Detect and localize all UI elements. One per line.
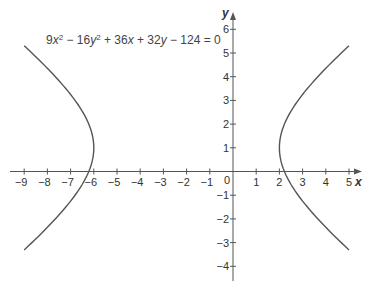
- x-tick-label: −3: [154, 176, 167, 188]
- y-tick-label: 5: [223, 47, 229, 59]
- y-axis: −4−3−2−1123456: [216, 12, 236, 281]
- y-tick-label: 3: [223, 94, 229, 106]
- x-axis-arrow-icon: [354, 169, 362, 175]
- y-tick-label: −3: [216, 237, 229, 249]
- x-axis: −9−8−7−6−5−4−3−2−112345: [10, 169, 362, 188]
- origin-label: 0: [224, 174, 230, 186]
- x-tick-label: 5: [346, 176, 352, 188]
- y-tick-label: 1: [223, 142, 229, 154]
- x-tick-label: −7: [61, 176, 74, 188]
- x-tick-label: −2: [177, 176, 190, 188]
- x-tick-label: 1: [253, 176, 259, 188]
- y-tick-label: 2: [223, 118, 229, 130]
- y-tick-label: −2: [216, 213, 229, 225]
- x-tick-label: 2: [276, 176, 282, 188]
- hyperbola-chart: −9−8−7−6−5−4−3−2−112345 −4−3−2−1123456 9…: [0, 0, 371, 287]
- y-tick-label: 6: [223, 23, 229, 35]
- equation-annotation: 9x2 − 16y2 + 36x + 32y − 124 = 0: [46, 33, 221, 48]
- x-tick-label: 3: [300, 176, 306, 188]
- x-tick-label: −5: [108, 176, 121, 188]
- right-branch: [279, 46, 349, 250]
- x-tick-label: −9: [15, 176, 28, 188]
- y-axis-label: y: [221, 6, 230, 20]
- x-tick-label: −8: [38, 176, 51, 188]
- y-axis-arrow-icon: [230, 12, 236, 20]
- x-tick-label: −4: [131, 176, 144, 188]
- x-axis-label: x: [354, 175, 363, 189]
- hyperbola-curves: [24, 46, 349, 250]
- left-branch: [24, 46, 94, 250]
- y-tick-label: −4: [216, 260, 229, 272]
- x-tick-label: 4: [323, 176, 329, 188]
- y-tick-label: −1: [216, 189, 229, 201]
- y-tick-label: 4: [223, 71, 229, 83]
- x-tick-label: −1: [201, 176, 214, 188]
